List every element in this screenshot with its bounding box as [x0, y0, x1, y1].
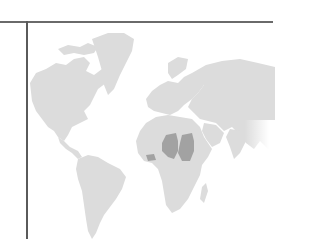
india — [226, 129, 246, 159]
world-map-svg — [28, 23, 275, 239]
right-edge-fade — [245, 120, 275, 239]
canadian-arctic-islands — [58, 43, 98, 55]
central-america — [58, 137, 82, 159]
madagascar — [200, 183, 208, 203]
south-america — [76, 155, 126, 239]
scandinavia — [168, 57, 188, 79]
world-map — [28, 23, 275, 239]
north-america — [30, 57, 108, 141]
